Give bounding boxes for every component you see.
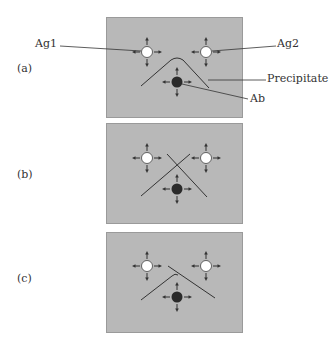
callout-ag2: Ag2 — [277, 37, 299, 50]
panel-b-wells — [132, 143, 221, 204]
antibody-well — [172, 77, 183, 88]
panel-c-wells — [132, 251, 221, 312]
panel-c-label: (c) — [17, 272, 32, 285]
antigen-well-1 — [142, 47, 153, 58]
leader-ab — [182, 84, 248, 99]
callout-precipitate: Precipitate — [267, 72, 328, 85]
panel-b-label: (b) — [17, 168, 33, 181]
leader-ag2 — [212, 46, 276, 51]
antigen-well-2 — [201, 47, 212, 58]
callout-ag1: Ag1 — [35, 37, 57, 50]
panel-a-label: (a) — [17, 62, 32, 75]
panel-a-wells — [132, 37, 221, 97]
callout-ab: Ab — [250, 92, 265, 105]
leader-ag1 — [60, 46, 141, 51]
diagram-drawing — [0, 0, 332, 349]
